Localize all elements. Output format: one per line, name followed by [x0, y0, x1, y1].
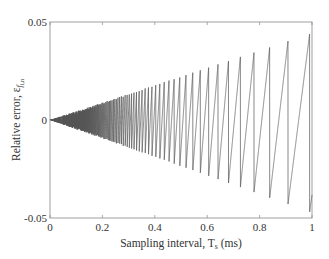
y-tick-label: 0.05 [28, 16, 48, 28]
y-tick-label: 0 [42, 114, 48, 126]
y-ticks: -0.0500.05 [24, 16, 47, 224]
x-tick-label: 0.6 [200, 221, 214, 233]
x-tick-label: 0 [47, 221, 53, 233]
x-tick-label: 0.4 [148, 221, 162, 233]
chart: 00.20.40.60.81 -0.0500.05 Sampling inter… [0, 0, 329, 259]
plot-area: 00.20.40.60.81 -0.0500.05 [24, 16, 315, 233]
x-tick-label: 0.2 [96, 221, 110, 233]
x-axis-label: Sampling interval, Ts (ms) [120, 237, 242, 251]
y-tick-label: -0.05 [24, 212, 47, 224]
x-tick-label: 1 [309, 221, 315, 233]
x-tick-label: 0.8 [253, 221, 267, 233]
y-axis-label: Relative error, εfi,n [10, 79, 25, 161]
